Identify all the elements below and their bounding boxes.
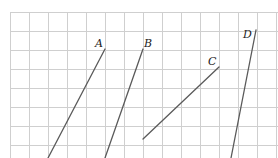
- line-label-d: D: [242, 28, 252, 41]
- line-segment-a: [48, 49, 105, 158]
- line-segment-d: [231, 30, 256, 158]
- line-label-a: A: [94, 37, 103, 50]
- grid: [10, 12, 278, 158]
- line-label-c: C: [208, 55, 217, 68]
- labels: ABCD: [94, 28, 252, 68]
- line-label-b: B: [143, 37, 152, 50]
- diagram-canvas: ABCD: [0, 0, 278, 158]
